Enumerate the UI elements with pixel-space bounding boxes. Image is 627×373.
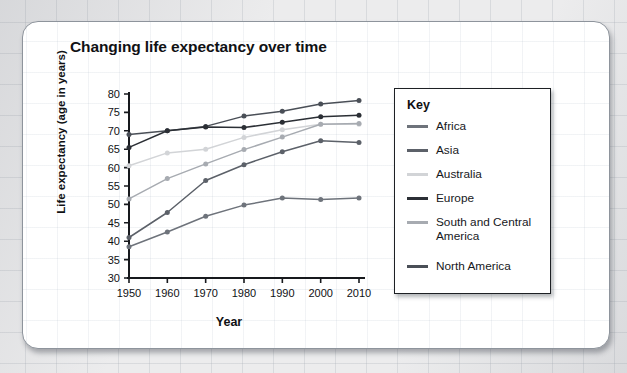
- y-axis-tick-label: 60: [108, 162, 120, 174]
- data-point-marker: [242, 114, 247, 119]
- legend-swatch-line-icon: [407, 173, 428, 176]
- x-axis-tick-label: 1960: [155, 287, 179, 299]
- x-axis-tick-label: 1950: [117, 287, 141, 299]
- series-line: [129, 123, 359, 198]
- data-point-marker: [357, 196, 362, 201]
- y-axis-tick-label: 45: [108, 217, 120, 229]
- data-point-marker: [203, 147, 208, 152]
- data-point-marker: [357, 121, 362, 126]
- legend-swatch-line-icon: [407, 149, 428, 152]
- data-point-marker: [318, 101, 323, 106]
- chart-card: Changing life expectancy over time Life …: [22, 21, 610, 349]
- legend-item-label: South and Central America: [436, 215, 543, 243]
- y-axis-tick-label: 80: [108, 88, 120, 100]
- x-axis-tick-label: 1980: [232, 287, 256, 299]
- y-axis-tick-label: 40: [108, 235, 120, 247]
- data-point-marker: [242, 135, 247, 140]
- data-point-marker: [127, 163, 132, 168]
- y-axis-tick-label: 50: [108, 198, 120, 210]
- data-point-marker: [203, 161, 208, 166]
- y-axis-tick-label: 65: [108, 143, 120, 155]
- legend-item-europe: Europe: [407, 191, 543, 205]
- y-axis-tick-label: 75: [108, 106, 120, 118]
- data-point-marker: [165, 230, 170, 235]
- data-point-marker: [127, 196, 132, 201]
- legend-item-australia: Australia: [407, 167, 543, 181]
- data-point-marker: [165, 150, 170, 155]
- data-point-marker: [165, 210, 170, 215]
- legend-item-south-and-central-america: South and Central America: [407, 215, 543, 243]
- legend-key-box: Key AfricaAsiaAustraliaEuropeSouth and C…: [394, 88, 551, 294]
- data-point-marker: [357, 113, 362, 118]
- data-point-marker: [165, 128, 170, 133]
- legend-item-label: North America: [436, 259, 511, 273]
- y-axis-tick-label: 55: [108, 180, 120, 192]
- legend-swatch-line-icon: [407, 265, 428, 268]
- data-point-marker: [165, 176, 170, 181]
- data-point-marker: [280, 135, 285, 140]
- data-point-marker: [357, 98, 362, 103]
- data-point-marker: [280, 149, 285, 154]
- y-axis-tick-label: 30: [108, 272, 120, 284]
- data-point-marker: [127, 132, 132, 137]
- data-point-marker: [357, 140, 362, 145]
- y-axis-tick-label: 35: [108, 254, 120, 266]
- data-point-marker: [242, 125, 247, 130]
- data-point-marker: [280, 109, 285, 114]
- legend-item-label: Australia: [436, 167, 482, 181]
- data-point-marker: [280, 127, 285, 132]
- data-point-marker: [318, 114, 323, 119]
- legend-item-asia: Asia: [407, 143, 543, 157]
- data-point-marker: [242, 203, 247, 208]
- data-point-marker: [280, 120, 285, 125]
- data-point-marker: [127, 145, 132, 150]
- legend-swatch-line-icon: [407, 221, 428, 224]
- legend-item-africa: Africa: [407, 119, 543, 133]
- data-point-marker: [318, 138, 323, 143]
- legend-swatch-line-icon: [407, 197, 428, 200]
- x-axis-tick-label: 2010: [347, 287, 371, 299]
- legend-item-label: Africa: [436, 119, 466, 133]
- y-axis-tick-label: 70: [108, 125, 120, 137]
- legend-item-north-america: North America: [407, 259, 543, 273]
- data-point-marker: [318, 122, 323, 127]
- x-axis-tick-label: 1970: [193, 287, 217, 299]
- x-axis-tick-label: 2000: [308, 287, 332, 299]
- x-axis-tick-label: 1990: [270, 287, 294, 299]
- data-point-marker: [203, 178, 208, 183]
- series-asia: [127, 138, 362, 240]
- data-point-marker: [203, 125, 208, 130]
- legend-item-label: Europe: [436, 191, 474, 205]
- series-line: [129, 141, 359, 238]
- series-africa: [127, 196, 362, 250]
- legend-swatch-line-icon: [407, 125, 428, 128]
- data-point-marker: [318, 197, 323, 202]
- legend-item-label: Asia: [436, 143, 459, 157]
- data-point-marker: [127, 244, 132, 249]
- series-north-america: [127, 98, 362, 137]
- data-point-marker: [280, 196, 285, 201]
- data-point-marker: [127, 235, 132, 240]
- data-point-marker: [203, 214, 208, 219]
- legend-heading: Key: [407, 98, 430, 112]
- data-point-marker: [242, 162, 247, 167]
- data-point-marker: [242, 147, 247, 152]
